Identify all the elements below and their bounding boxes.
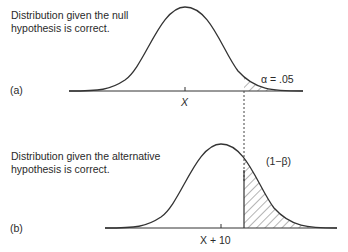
power-region xyxy=(105,144,337,228)
alt-curve xyxy=(105,144,337,228)
null-distribution xyxy=(69,7,303,91)
alternative-distribution xyxy=(105,144,337,228)
power-diagram xyxy=(0,0,348,252)
null-curve xyxy=(69,7,303,91)
alpha-region xyxy=(69,7,303,91)
